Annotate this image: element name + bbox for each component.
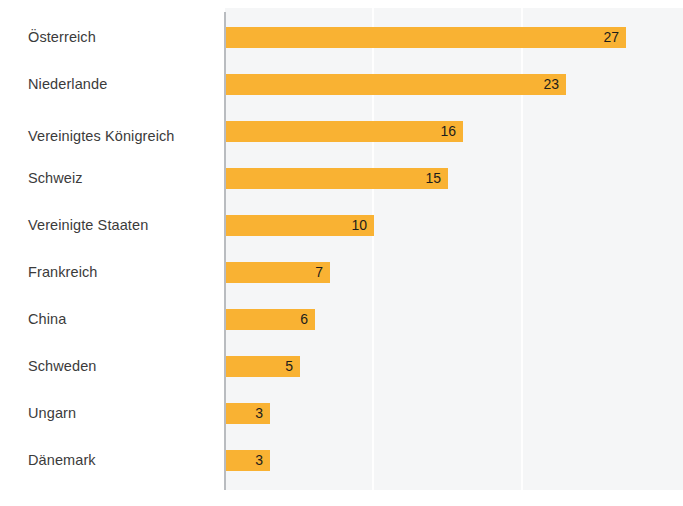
category-label: Österreich (28, 14, 96, 61)
bar-value-label: 15 (425, 168, 441, 189)
bar-track: 7 (226, 262, 330, 283)
bar: 15 (226, 168, 448, 189)
bar: 16 (226, 121, 463, 142)
bar-value-label: 3 (255, 450, 263, 471)
bar-track: 3 (226, 450, 270, 471)
category-label: Vereinigte Staaten (28, 202, 148, 249)
bar-track: 16 (226, 121, 463, 142)
bar: 3 (226, 403, 270, 424)
category-label: Dänemark (28, 437, 96, 484)
bar-track: 5 (226, 356, 300, 377)
bar-value-label: 27 (603, 27, 619, 48)
category-label: Ungarn (28, 390, 76, 437)
category-label: Niederlande (28, 61, 107, 108)
bar-row: Schweden5 (0, 343, 683, 390)
bar: 3 (226, 450, 270, 471)
bar-value-label: 5 (285, 356, 293, 377)
category-label: Schweiz (28, 155, 83, 202)
bar-row: Niederlande23 (0, 61, 683, 108)
bar-value-label: 7 (315, 262, 323, 283)
bar: 23 (226, 74, 566, 95)
bar-value-label: 6 (300, 309, 308, 330)
bar-row: China6 (0, 296, 683, 343)
bar-value-label: 3 (255, 403, 263, 424)
bar: 5 (226, 356, 300, 377)
bar-row: Österreich27 (0, 14, 683, 61)
bar: 10 (226, 215, 374, 236)
bar: 27 (226, 27, 626, 48)
category-label: Frankreich (28, 249, 98, 296)
bar-row: Frankreich7 (0, 249, 683, 296)
bar-row: Vereinigtes Königreich16 (0, 108, 683, 155)
bar-track: 27 (226, 27, 626, 48)
bar-row: Ungarn3 (0, 390, 683, 437)
bar-row: Vereinigte Staaten10 (0, 202, 683, 249)
category-label: China (28, 296, 66, 343)
bar-value-label: 10 (351, 215, 367, 236)
bar-row: Dänemark3 (0, 437, 683, 484)
category-label: Schweden (28, 343, 97, 390)
bar-track: 23 (226, 74, 566, 95)
bar-chart: Österreich27Niederlande23Vereinigtes Kön… (0, 0, 683, 506)
bar-row: Schweiz15 (0, 155, 683, 202)
bar: 7 (226, 262, 330, 283)
bar-track: 3 (226, 403, 270, 424)
bar-value-label: 16 (440, 121, 456, 142)
bar-track: 15 (226, 168, 448, 189)
bar-value-label: 23 (543, 74, 559, 95)
footer-caption-strip (0, 496, 683, 506)
bar-rows: Österreich27Niederlande23Vereinigtes Kön… (0, 0, 683, 506)
category-label: Vereinigtes Königreich (28, 108, 177, 155)
bar: 6 (226, 309, 315, 330)
bar-track: 10 (226, 215, 374, 236)
bar-track: 6 (226, 309, 315, 330)
